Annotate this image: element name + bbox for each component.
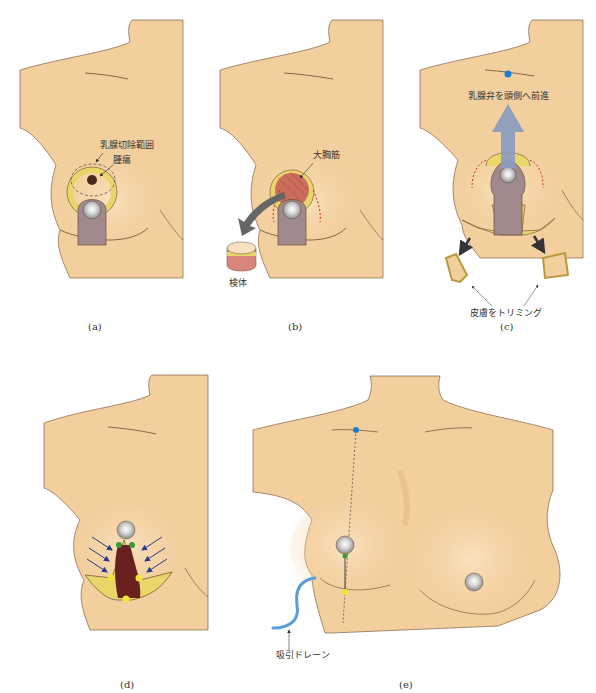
specimen-tissue xyxy=(227,242,256,271)
label-suction-drain: 吸引ドレーン xyxy=(276,650,330,660)
nipple-right-e xyxy=(336,536,354,554)
label-specimen: 検体 xyxy=(229,277,247,288)
yellow-point-e xyxy=(342,589,348,595)
trimmed-skin-right xyxy=(543,253,568,278)
yellow-point-bottom-d xyxy=(123,596,130,603)
nipple-d xyxy=(117,521,135,539)
caption-e: (e) xyxy=(399,679,413,690)
nipple-b xyxy=(283,201,301,219)
panel-e: 吸引ドレーン (e) xyxy=(253,376,560,690)
caption-c: (c) xyxy=(500,321,514,332)
nipple-left-e xyxy=(465,573,483,591)
tumor xyxy=(87,175,97,185)
nipple-c xyxy=(500,167,516,183)
panel-a: 乳腺切除範囲 腫瘍 (a) xyxy=(20,20,183,332)
label-tumor: 腫瘍 xyxy=(113,154,131,165)
caption-d: (d) xyxy=(120,679,134,690)
label-pectoralis-major: 大胸筋 xyxy=(313,149,340,160)
nipple-a xyxy=(83,201,101,219)
caption-a: (a) xyxy=(88,321,102,332)
label-resection-range: 乳腺切除範囲 xyxy=(100,139,154,150)
green-point-right-d xyxy=(129,542,135,548)
label-advance-flap: 乳腺弁を頭側へ前進 xyxy=(468,90,549,101)
green-point-left-d xyxy=(116,542,122,548)
caption-b: (b) xyxy=(288,321,302,332)
yellow-point-left-d xyxy=(108,575,115,582)
green-point-e xyxy=(343,554,348,559)
panel-b: 大胸筋 検体 (b) xyxy=(220,20,383,332)
sternal-point-e xyxy=(353,427,359,433)
panel-c: 乳腺弁を頭側へ前進 皮膚をトリミング (c) xyxy=(420,20,583,332)
panel-d: (d) xyxy=(44,375,208,690)
yellow-point-right-d xyxy=(136,575,143,582)
sternal-notch-point-c xyxy=(505,71,512,78)
trimmed-skin-left xyxy=(446,254,467,282)
surgical-diagram: 乳腺切除範囲 腫瘍 (a) 大胸筋 検体 (b) xyxy=(0,0,596,693)
breast-left-e xyxy=(410,510,530,620)
label-trim-skin: 皮膚をトリミング xyxy=(470,307,542,318)
